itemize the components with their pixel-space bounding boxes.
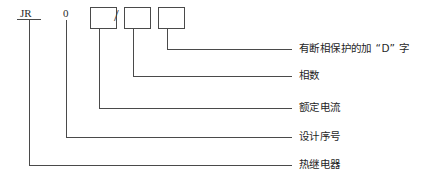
code-design-digit: 0 xyxy=(63,8,69,19)
code-box-1 xyxy=(91,8,117,29)
code-separator-slash: / xyxy=(114,7,119,24)
callout-design-serial-label: 设计序号 xyxy=(299,131,341,142)
callout-rated-current-label: 额定电流 xyxy=(299,102,341,113)
callout-thermal-relay-label: 热继电器 xyxy=(299,159,341,170)
model-designation-diagram: JR 0 / 有断相保护的加 “D” 字 相数 额定电流 设计序号 热继电器 xyxy=(0,0,426,180)
callout-phase-protection-label: 有断相保护的加 “D” 字 xyxy=(299,43,410,54)
code-prefix-jr: JR xyxy=(20,8,32,19)
code-box-2 xyxy=(125,8,151,29)
diagram-linework xyxy=(0,0,426,180)
code-box-3 xyxy=(159,8,185,29)
callout-phase-count-label: 相数 xyxy=(299,70,320,81)
